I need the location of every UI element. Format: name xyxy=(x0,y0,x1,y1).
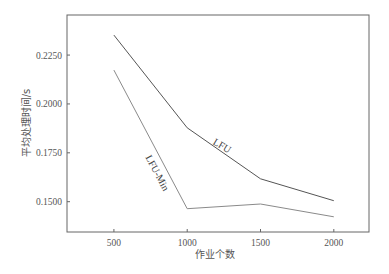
y-axis-title: 平均处理时间/s xyxy=(20,89,32,158)
y-tick-label: 0.1750 xyxy=(36,148,62,158)
y-tick-label: 0.2250 xyxy=(36,51,62,61)
series-line-lfu xyxy=(114,35,334,201)
series-lines xyxy=(114,35,334,217)
series-label-lfu-min: LFU-Min xyxy=(143,153,171,193)
x-tick-label: 1000 xyxy=(178,238,197,248)
plot-border xyxy=(67,15,369,232)
y-tick-label: 0.1500 xyxy=(36,197,62,207)
line-chart: 0.15000.17500.20000.2250 500100015002000… xyxy=(0,0,389,274)
x-tick-label: 1500 xyxy=(251,238,270,248)
x-tick-label: 2000 xyxy=(324,238,343,248)
y-axis-ticks: 0.15000.17500.20000.2250 xyxy=(36,51,70,208)
x-tick-label: 500 xyxy=(107,238,122,248)
x-axis-title: 作业个数 xyxy=(195,248,235,260)
plot-frame xyxy=(67,15,369,232)
y-tick-label: 0.2000 xyxy=(36,99,62,109)
